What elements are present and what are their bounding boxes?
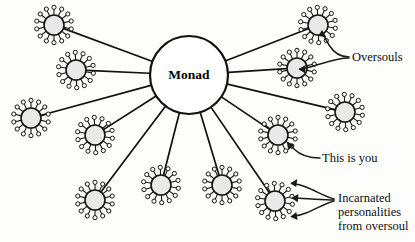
spike-tip (312, 70, 316, 74)
spike-tip (287, 209, 291, 213)
spike-tip (35, 27, 39, 31)
spike-tip (15, 105, 19, 109)
spike-tip (46, 112, 50, 116)
node-bottom-center-body (151, 175, 171, 195)
spike-tip (274, 217, 278, 221)
spike-tip (278, 70, 282, 74)
node-top-left (35, 5, 74, 45)
spike-tip (295, 48, 299, 52)
spike-tip (146, 194, 150, 198)
label-incarnated-line-2: personalities (338, 205, 401, 219)
spike-tip (85, 182, 89, 186)
spike-tip (303, 82, 307, 86)
node-top-left-body (44, 15, 64, 35)
node-right-you (259, 115, 298, 155)
node-far-left (12, 98, 51, 138)
spike-tip (166, 167, 170, 171)
spike-tip (287, 50, 291, 54)
spike-tip (284, 117, 288, 121)
spike-tip (287, 82, 291, 86)
spike-tip (88, 78, 92, 82)
label-incarnated-line-1: Incarnated (338, 191, 391, 205)
monad-oversoul-diagram: Monad Oversouls This is you Incarnated p… (0, 0, 415, 242)
spike-tip (259, 137, 263, 141)
spoke-to-node-upper-left (86, 70, 149, 73)
spike-tip (356, 98, 360, 102)
spike-tip (91, 63, 95, 67)
label-this-is-you: This is you (322, 151, 378, 165)
spike-tip (152, 199, 156, 203)
spike-tip (142, 180, 146, 184)
spike-tip (295, 84, 299, 88)
spike-tip (293, 137, 297, 141)
spike-tip (106, 121, 110, 125)
spike-tip (333, 26, 337, 30)
spike-tip (29, 134, 33, 138)
spike-tip (110, 202, 114, 206)
spike-tip (276, 151, 280, 155)
spike-tip (237, 179, 241, 183)
spike-tip (309, 39, 313, 43)
node-bottom-left-body (85, 190, 105, 210)
oversouls-arrow-upper (322, 32, 349, 57)
spoke-to-node-bottom-center (164, 113, 180, 175)
spike-tip (330, 121, 334, 125)
spike-tip (37, 100, 41, 104)
spike-tip (173, 193, 177, 197)
spike-tip (82, 83, 86, 87)
spike-tip (110, 136, 114, 140)
node-upper-right (278, 48, 317, 88)
spike-tip (75, 86, 79, 90)
spike-tip (85, 214, 89, 218)
spike-tip (76, 202, 80, 206)
spike-tip (357, 120, 361, 124)
spike-tip (268, 117, 272, 121)
spike-tip (344, 128, 348, 132)
spike-tip (66, 52, 70, 56)
spike-tip (110, 194, 114, 198)
spike-tip (350, 94, 354, 98)
spike-tip (278, 62, 282, 66)
spike-tip (336, 126, 340, 130)
spike-tip (52, 41, 56, 45)
spike-tip (335, 94, 339, 98)
spike-tip (237, 187, 241, 191)
spike-tip (351, 125, 355, 129)
spike-tip (79, 209, 83, 213)
spike-tip (329, 99, 333, 103)
spike-tip (158, 165, 162, 169)
spike-tip (290, 202, 294, 206)
node-bottom-mid-body (212, 175, 232, 195)
spoke-to-node-top-right (226, 29, 308, 61)
monad-center-group: Monad (150, 36, 228, 114)
spike-tip (281, 55, 285, 59)
spike-tip (21, 100, 25, 104)
spike-tip (52, 5, 56, 9)
incarnated-arrow-top (292, 184, 334, 200)
spike-tip (330, 33, 334, 37)
spike-tip (81, 52, 85, 56)
spike-tip (299, 28, 303, 32)
spike-tip (60, 39, 64, 43)
spike-tip (93, 180, 97, 184)
spike-tip (302, 12, 306, 16)
spike-tip (12, 112, 16, 116)
spike-tip (220, 201, 224, 205)
spike-tip (212, 167, 216, 171)
spike-tip (280, 183, 284, 187)
spike-tip (176, 186, 180, 190)
spike-tip (206, 194, 210, 198)
spike-tip (86, 149, 90, 153)
spike-tip (151, 167, 155, 171)
spike-tip (333, 18, 337, 22)
spike-tip (79, 122, 83, 126)
spike-tip (60, 57, 64, 61)
spike-tip (266, 215, 270, 219)
spike-tip (12, 120, 16, 124)
spike-tip (268, 149, 272, 153)
spike-tip (299, 20, 303, 24)
spike-tip (265, 183, 269, 187)
spike-tip (203, 179, 207, 183)
spike-tip (110, 128, 114, 132)
spike-tip (80, 144, 84, 148)
